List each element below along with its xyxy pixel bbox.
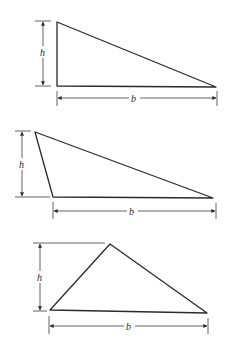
acute-triangle bbox=[50, 244, 207, 313]
base-label: b bbox=[131, 93, 136, 104]
obtuse-triangle bbox=[35, 132, 213, 198]
height-label: h bbox=[40, 47, 45, 58]
height-label: h bbox=[37, 272, 42, 283]
height-label: h bbox=[19, 159, 24, 170]
acute-triangle-group: h b bbox=[33, 243, 208, 334]
right-triangle bbox=[57, 22, 216, 87]
triangle-figure: h b h b h b bbox=[0, 0, 230, 349]
obtuse-triangle-group: h b bbox=[15, 131, 216, 219]
base-label: b bbox=[129, 206, 134, 217]
right-triangle-group: h b bbox=[35, 21, 217, 106]
base-label: b bbox=[126, 321, 131, 332]
